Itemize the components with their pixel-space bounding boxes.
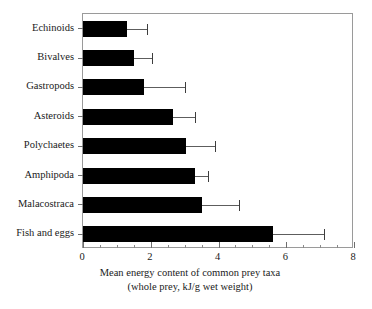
error-bar-line — [195, 176, 209, 177]
y-axis-label-fish-and-eggs: Fish and eggs — [0, 225, 74, 241]
x-axis-minor-tick — [235, 245, 236, 248]
error-bar-cap — [239, 200, 240, 211]
y-axis-label-gastropods: Gastropods — [0, 78, 74, 94]
x-axis-minor-tick — [252, 245, 253, 248]
x-axis-caption-line-1: Mean energy content of common prey taxa — [20, 266, 360, 280]
bar-gastropods — [83, 79, 144, 95]
error-bar-line — [144, 87, 185, 88]
y-axis-label-asteroids: Asteroids — [0, 108, 74, 124]
error-bar-line — [134, 58, 153, 59]
x-axis-minor-tick — [168, 245, 169, 248]
bar-row — [83, 109, 354, 125]
y-axis-tick — [78, 175, 83, 176]
y-axis-tick — [78, 204, 83, 205]
bar-row — [83, 138, 354, 154]
x-axis-major-tick — [286, 242, 287, 248]
bar-row — [83, 226, 354, 242]
bar-bivalves — [83, 50, 134, 66]
bar-row — [83, 168, 354, 184]
y-axis-tick — [78, 116, 83, 117]
x-axis-tick-label: 0 — [67, 250, 97, 263]
y-axis-label-amphipoda: Amphipoda — [0, 167, 74, 183]
bar-row — [83, 50, 354, 66]
x-axis-minor-tick — [185, 245, 186, 248]
error-bar-cap — [195, 112, 196, 123]
bar-row — [83, 21, 354, 37]
x-axis-major-tick — [219, 242, 220, 248]
x-axis-tick-label: 4 — [203, 250, 233, 263]
bar-row — [83, 197, 354, 213]
error-bar-line — [186, 146, 215, 147]
y-axis-tick — [78, 234, 83, 235]
bar-chart: EchinoidsBivalvesGastropodsAsteroidsPoly… — [0, 0, 372, 309]
error-bar-cap — [215, 141, 216, 152]
x-axis-tick-label: 8 — [338, 250, 368, 263]
y-axis-label-polychaetes: Polychaetes — [0, 137, 74, 153]
error-bar-cap — [147, 24, 148, 35]
y-axis-label-echinoids: Echinoids — [0, 20, 74, 36]
y-axis-label-bivalves: Bivalves — [0, 49, 74, 65]
y-axis-tick — [78, 58, 83, 59]
y-axis-tick — [78, 146, 83, 147]
error-bar-cap — [324, 229, 325, 240]
error-bar-cap — [208, 171, 209, 182]
error-bar-line — [127, 29, 147, 30]
x-axis-minor-tick — [269, 245, 270, 248]
y-axis-tick — [78, 28, 83, 29]
y-axis-label-malacostraca: Malacostraca — [0, 196, 74, 212]
error-bar-line — [202, 205, 239, 206]
bar-row — [83, 79, 354, 95]
x-axis-caption-line-2: (whole prey, kJ/g wet weight) — [20, 280, 360, 294]
plot-area — [82, 13, 353, 248]
bar-polychaetes — [83, 138, 186, 154]
bar-echinoids — [83, 21, 127, 37]
x-axis-major-tick — [151, 242, 152, 248]
x-axis-tick-label: 6 — [270, 250, 300, 263]
bar-asteroids — [83, 109, 173, 125]
error-bar-line — [273, 234, 324, 235]
error-bar-cap — [185, 82, 186, 93]
bar-malacostraca — [83, 197, 202, 213]
x-axis-minor-tick — [303, 245, 304, 248]
error-bar-cap — [152, 53, 153, 64]
x-axis-minor-tick — [320, 245, 321, 248]
x-axis-major-tick — [83, 242, 84, 248]
x-axis-major-tick — [354, 242, 355, 248]
y-axis-tick — [78, 87, 83, 88]
x-axis-minor-tick — [117, 245, 118, 248]
bar-amphipoda — [83, 168, 195, 184]
x-axis-minor-tick — [134, 245, 135, 248]
x-axis-tick-label: 2 — [135, 250, 165, 263]
x-axis-minor-tick — [100, 245, 101, 248]
x-axis-minor-tick — [337, 245, 338, 248]
x-axis-minor-tick — [202, 245, 203, 248]
bar-fish-and-eggs — [83, 226, 273, 242]
error-bar-line — [173, 117, 195, 118]
x-axis-caption: Mean energy content of common prey taxa … — [20, 266, 360, 294]
